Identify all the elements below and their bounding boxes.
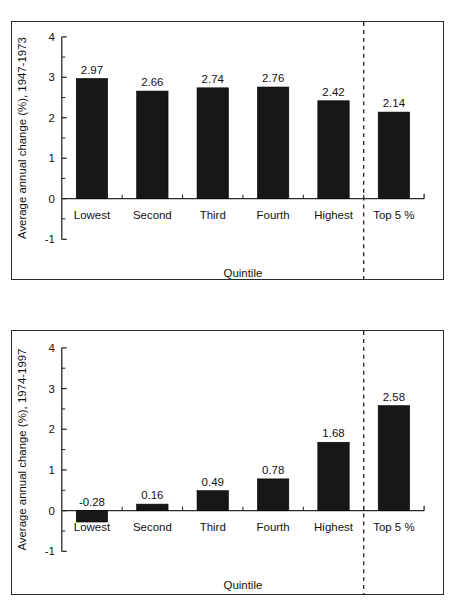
figure-container: 43210-12.97Lowest2.66Second2.74Third2.76… xyxy=(0,0,456,601)
y-axis-title: Average annual change (%), 1947-1973 xyxy=(16,37,28,239)
y-tick-label: 0 xyxy=(48,193,54,205)
y-tick-label: 2 xyxy=(48,112,54,124)
x-axis-title: Quintile xyxy=(224,267,263,279)
bar-value-label: -0.28 xyxy=(79,496,105,508)
bar-value-label: 2.14 xyxy=(383,97,406,109)
bar-second xyxy=(137,504,168,511)
bar-value-label: 0.16 xyxy=(141,489,163,501)
x-category-label: Fourth xyxy=(257,209,290,221)
bar-value-label: 2.76 xyxy=(262,72,284,84)
y-tick-label: 2 xyxy=(48,423,54,435)
bar-top-5 xyxy=(378,112,409,199)
y-tick-label: 3 xyxy=(48,383,54,395)
y-tick-label: -1 xyxy=(45,545,55,557)
y-tick-label: 4 xyxy=(48,342,55,354)
y-tick-label: -1 xyxy=(45,233,55,245)
x-category-label: Highest xyxy=(314,209,354,221)
x-category-label: Top 5 % xyxy=(373,209,414,221)
bar-chart-top: 43210-12.97Lowest2.66Second2.74Third2.76… xyxy=(12,22,443,279)
x-category-label: Lowest xyxy=(74,209,111,221)
bar-lowest xyxy=(76,511,107,522)
bar-value-label: 0.49 xyxy=(202,476,224,488)
chart-panel-top: 43210-12.97Lowest2.66Second2.74Third2.76… xyxy=(11,21,444,280)
bar-value-label: 0.78 xyxy=(262,464,284,476)
bar-top-5 xyxy=(378,406,409,511)
y-tick-label: 0 xyxy=(48,505,54,517)
bar-value-label: 2.66 xyxy=(141,76,163,88)
bar-fourth xyxy=(257,87,288,199)
y-axis-title: Average annual change (%), 1974-1997 xyxy=(16,349,28,551)
bar-highest xyxy=(318,442,349,510)
bar-third xyxy=(197,88,228,199)
bar-second xyxy=(137,91,168,199)
y-tick-label: 1 xyxy=(48,152,54,164)
x-category-label: Top 5 % xyxy=(373,521,414,533)
x-category-label: Fourth xyxy=(257,521,290,533)
bar-value-label: 2.74 xyxy=(202,73,225,85)
bar-value-label: 2.42 xyxy=(322,86,344,98)
bar-highest xyxy=(318,101,349,199)
bar-third xyxy=(197,491,228,511)
x-category-label: Third xyxy=(200,521,226,533)
x-category-label: Highest xyxy=(314,521,354,533)
x-category-label: Lowest xyxy=(74,521,111,533)
bar-lowest xyxy=(76,79,107,199)
y-tick-label: 1 xyxy=(48,464,54,476)
x-category-label: Third xyxy=(200,209,226,221)
x-category-label: Second xyxy=(133,521,172,533)
bar-value-label: 2.97 xyxy=(81,64,103,76)
y-tick-label: 4 xyxy=(48,31,55,43)
x-category-label: Second xyxy=(133,209,172,221)
bar-chart-bottom: 43210-1-0.28Lowest0.16Second0.49Third0.7… xyxy=(12,331,443,594)
bar-value-label: 1.68 xyxy=(322,427,344,439)
x-axis-title: Quintile xyxy=(224,579,263,591)
y-tick-label: 3 xyxy=(48,71,54,83)
bar-fourth xyxy=(257,479,288,511)
bar-value-label: 2.58 xyxy=(383,391,405,403)
chart-panel-bottom: 43210-1-0.28Lowest0.16Second0.49Third0.7… xyxy=(11,330,444,595)
